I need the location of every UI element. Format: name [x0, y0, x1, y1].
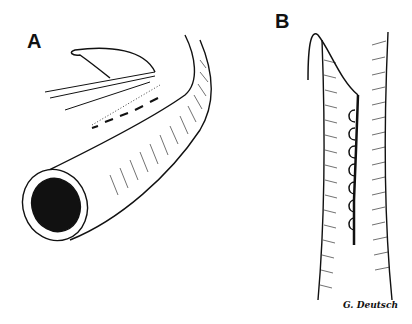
suture-loop-a [71, 48, 155, 78]
panel-a-forceps [45, 48, 155, 110]
drawing [0, 0, 412, 324]
vessel-b-right-edge [385, 32, 392, 300]
illustration: A B [0, 0, 412, 324]
vessel-b-hatching-left [320, 60, 337, 288]
vessel-a-stitches [92, 98, 158, 128]
artist-signature: G. Deutsch [343, 300, 398, 310]
suture-tail-b [308, 34, 358, 95]
vessel-b-left-edge [318, 40, 324, 300]
vessel-a-outline-bottom [70, 40, 211, 240]
forceps-jaw-lower [50, 76, 155, 98]
panel-a-vessel [13, 35, 212, 250]
vessel-a-incision [92, 85, 160, 125]
panel-b-vessel [308, 32, 392, 300]
vessel-a-outline-top [45, 35, 194, 172]
forceps-jaw-upper [45, 72, 155, 92]
vessel-b-suture-line [354, 95, 358, 245]
